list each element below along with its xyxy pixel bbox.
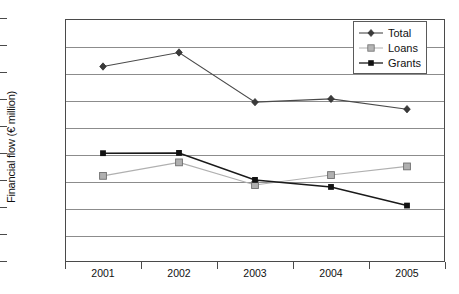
legend-label-total: Total (384, 27, 411, 39)
x-tick-label: 2001 (68, 268, 138, 279)
x-tick-label: 2002 (144, 268, 214, 279)
data-point (100, 63, 107, 70)
data-point (328, 184, 334, 190)
y-tick-mark (0, 153, 7, 154)
data-point (176, 150, 182, 156)
data-point (100, 150, 106, 156)
data-point (404, 163, 411, 170)
y-tick-mark (0, 18, 7, 19)
x-tick-mark (293, 262, 294, 269)
data-point (176, 159, 183, 166)
legend-item-loans[interactable]: Loans (358, 40, 421, 55)
data-point (252, 98, 259, 105)
data-point (100, 172, 107, 179)
y-tick-mark (0, 234, 7, 235)
x-tick-mark (217, 262, 218, 269)
legend-label-loans: Loans (384, 42, 418, 54)
y-tick-mark (0, 72, 7, 73)
y-tick-mark (0, 126, 7, 127)
legend-label-grants: Grants (384, 57, 421, 69)
data-point (404, 105, 411, 112)
x-tick-label: 2003 (220, 268, 290, 279)
chart-legend: Total Loans Grants (353, 21, 427, 74)
y-tick-mark (0, 99, 7, 100)
y-tick-mark (0, 261, 7, 262)
x-tick-label: 2004 (296, 268, 366, 279)
data-point (328, 172, 335, 179)
series-grants (100, 150, 410, 208)
legend-marker-triangle-icon (358, 56, 384, 70)
y-tick-mark (0, 45, 7, 46)
x-tick-mark (369, 262, 370, 269)
data-point (176, 49, 183, 56)
legend-marker-square-icon (358, 41, 384, 55)
x-tick-mark (445, 262, 446, 269)
series-loans (100, 159, 411, 188)
legend-item-total[interactable]: Total (358, 25, 421, 40)
data-point (252, 177, 258, 183)
legend-marker-diamond-icon (358, 26, 384, 40)
x-tick-mark (141, 262, 142, 269)
data-point (328, 95, 335, 102)
legend-item-grants[interactable]: Grants (358, 55, 421, 70)
line-chart: Financial flow (€ million) 05001,0001,50… (0, 0, 459, 294)
x-tick-mark (65, 262, 66, 269)
y-tick-mark (0, 180, 7, 181)
data-point (404, 203, 410, 209)
x-tick-label: 2005 (372, 268, 442, 279)
y-tick-mark (0, 207, 7, 208)
